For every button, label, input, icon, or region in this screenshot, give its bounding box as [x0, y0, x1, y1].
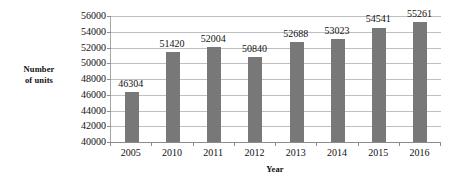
x-axis-tick-mark [110, 142, 111, 146]
y-axis-tick-label: 40000 [60, 137, 106, 147]
x-axis-tick-mark [399, 142, 400, 146]
bar-chart-figure: Number of units 560005400052000500004800… [0, 0, 457, 182]
x-axis-title: Year [110, 164, 440, 174]
bar[interactable] [413, 22, 427, 142]
bar-slot [400, 16, 441, 142]
bar[interactable] [207, 47, 221, 142]
x-axis-tick-mark [151, 142, 152, 146]
x-axis-tick-mark [316, 142, 317, 146]
y-axis-tick-label: 50000 [60, 58, 106, 68]
x-axis-tick-mark [234, 142, 235, 146]
y-axis-tick-label: 56000 [60, 11, 106, 21]
y-axis-tick-label: 44000 [60, 106, 106, 116]
bar-value-label: 46304 [104, 79, 158, 89]
y-axis-tick-label: 42000 [60, 121, 106, 131]
bar[interactable] [248, 57, 262, 142]
bar-value-label: 53023 [310, 26, 364, 36]
x-axis-tick-label: 2016 [392, 147, 446, 158]
bar[interactable] [331, 39, 345, 142]
y-axis-tick-label: 48000 [60, 74, 106, 84]
x-axis-tick-mark [358, 142, 359, 146]
x-axis-tick-mark [275, 142, 276, 146]
bar[interactable] [372, 28, 386, 143]
y-axis-tick-labels: 5600054000520005000048000460004400042000… [56, 0, 106, 182]
y-axis-tick-label: 46000 [60, 90, 106, 100]
bar[interactable] [125, 92, 139, 142]
bar[interactable] [290, 42, 304, 142]
bar-value-label: 55261 [392, 9, 446, 19]
y-axis-tick-label: 54000 [60, 27, 106, 37]
bar-slot [359, 16, 400, 142]
bar[interactable] [166, 52, 180, 142]
x-axis-tick-mark [193, 142, 194, 146]
x-axis-tick-mark [440, 142, 441, 146]
y-axis-tick-label: 52000 [60, 43, 106, 53]
bar-value-label: 50840 [227, 44, 281, 54]
